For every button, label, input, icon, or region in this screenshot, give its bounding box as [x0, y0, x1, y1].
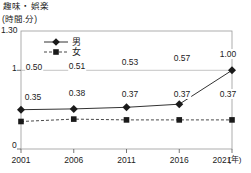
- female-data-point-2006: [71, 116, 77, 122]
- male-value-label-2011: 0.53: [121, 57, 139, 67]
- female-value-label-2006: 0.38: [68, 88, 86, 98]
- hobbies-entertainment-line-chart: 趣味・娯楽 (時間.分) 1.30 1 0: [0, 0, 251, 173]
- female-value-label-2021: 0.37: [219, 89, 237, 99]
- female-data-point-2011: [124, 117, 130, 123]
- male-value-label-2006: 0.51: [68, 61, 86, 71]
- legend-male-marker: [52, 38, 60, 46]
- male-value-label-2021: 1.00: [219, 49, 237, 59]
- male-data-point-2021: [228, 66, 236, 74]
- x-axis-label-2011: 2011: [117, 155, 135, 165]
- female-data-point-2001: [18, 119, 24, 125]
- male-data-point-2016: [175, 100, 183, 108]
- female-value-label-2001: 0.35: [24, 92, 42, 102]
- x-axis-label-2016: 2016: [170, 155, 189, 165]
- male-value-label-2001: 0.50: [25, 62, 43, 72]
- x-axis-unit-label: (年): [228, 155, 241, 165]
- plot-area: [0, 0, 251, 173]
- legend-label-male: 男: [72, 37, 81, 47]
- legend-female-marker: [53, 49, 59, 55]
- x-axis-label-2006: 2006: [64, 155, 83, 165]
- legend-label-female: 女: [72, 47, 81, 57]
- x-axis-label-2001: 2001: [12, 155, 31, 165]
- female-data-point-2021: [229, 117, 235, 123]
- female-value-label-2011: 0.37: [121, 89, 139, 99]
- male-data-point-2006: [70, 105, 78, 113]
- female-data-point-2016: [176, 117, 182, 123]
- male-value-label-2016: 0.57: [173, 53, 191, 63]
- female-value-label-2016: 0.37: [173, 89, 191, 99]
- male-data-point-2011: [123, 103, 131, 111]
- male-data-point-2001: [17, 106, 25, 114]
